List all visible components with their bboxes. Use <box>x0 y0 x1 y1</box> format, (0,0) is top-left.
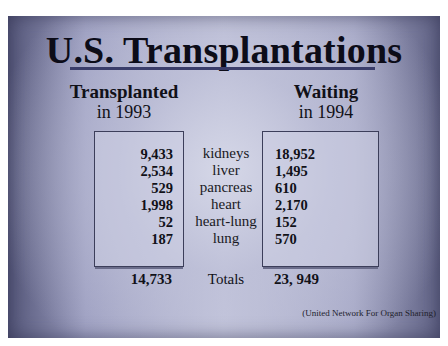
waiting-value: 610 <box>275 180 315 197</box>
organ-label: kidneys <box>186 145 266 162</box>
transplanted-header: Transplanted in 1993 <box>68 82 180 122</box>
waiting-header-year: in 1994 <box>270 102 382 122</box>
transplanted-values: 9,433 2,534 529 1,998 52 187 <box>140 146 173 248</box>
transplanted-header-year: in 1993 <box>68 102 180 122</box>
waiting-header-title: Waiting <box>270 82 382 102</box>
transplanted-header-title: Transplanted <box>68 82 180 102</box>
waiting-values: 18,952 1,495 610 2,170 152 570 <box>275 146 315 248</box>
transplanted-value: 1,998 <box>140 197 173 214</box>
waiting-value: 2,170 <box>275 197 315 214</box>
organ-label: lung <box>186 230 266 247</box>
slide: U.S. Transplantations Transplanted in 19… <box>8 16 440 338</box>
transplanted-value: 187 <box>140 231 173 248</box>
transplanted-value: 2,534 <box>140 163 173 180</box>
transplanted-total: 14,733 <box>94 270 172 288</box>
transplanted-value: 529 <box>140 180 173 197</box>
waiting-header: Waiting in 1994 <box>270 82 382 122</box>
transplanted-value: 52 <box>140 214 173 231</box>
organ-labels: kidneys liver pancreas heart heart-lung … <box>186 145 266 247</box>
slide-title: U.S. Transplantations <box>8 30 440 70</box>
waiting-total: 23, 949 <box>274 270 374 288</box>
organ-label: pancreas <box>186 179 266 196</box>
transplanted-box: 9,433 2,534 529 1,998 52 187 <box>94 131 184 267</box>
organ-label: heart-lung <box>186 213 266 230</box>
waiting-value: 18,952 <box>275 146 315 163</box>
waiting-value: 152 <box>275 214 315 231</box>
totals-label: Totals <box>186 270 266 288</box>
transplanted-value: 9,433 <box>140 146 173 163</box>
waiting-value: 570 <box>275 231 315 248</box>
waiting-value: 1,495 <box>275 163 315 180</box>
organ-label: heart <box>186 196 266 213</box>
title-underline <box>70 67 375 70</box>
organ-label: liver <box>186 162 266 179</box>
source-citation: (United Network For Organ Sharing) <box>302 308 436 318</box>
waiting-box: 18,952 1,495 610 2,170 152 570 <box>262 131 379 267</box>
